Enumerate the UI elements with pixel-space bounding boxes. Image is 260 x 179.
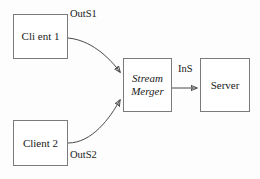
node-client-1[interactable]: Cli ent 1	[13, 14, 68, 59]
edge-client1-to-merger	[68, 38, 120, 72]
edge-label-outs1: OutS1	[70, 8, 97, 19]
node-client-1-label: Cli ent 1	[22, 30, 60, 43]
edge-client2-to-merger	[68, 100, 120, 143]
node-server[interactable]: Server	[200, 58, 250, 112]
edge-label-outs2: OutS2	[70, 149, 97, 160]
node-client-2[interactable]: Client 2	[13, 120, 68, 166]
edge-label-ins: InS	[178, 63, 193, 74]
node-stream-merger-label-line2: Merger	[131, 85, 164, 98]
node-stream-merger-label-line1: Stream	[131, 72, 164, 85]
node-client-2-label: Client 2	[23, 137, 58, 150]
stream-merger-diagram: Cli ent 1 Client 2 Stream Merger Server …	[0, 0, 260, 179]
node-server-label: Server	[211, 79, 240, 92]
node-stream-merger-text: Stream Merger	[131, 72, 164, 98]
node-stream-merger[interactable]: Stream Merger	[123, 58, 172, 112]
